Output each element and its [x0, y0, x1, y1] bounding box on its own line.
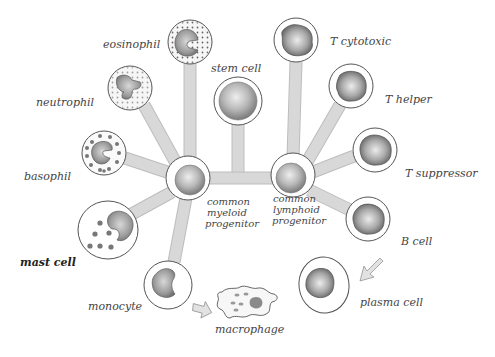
node-t-helper: T helper — [329, 64, 432, 108]
label-b-cell: B cell — [400, 235, 433, 248]
label-cmp-line1: common — [207, 196, 250, 207]
label-macrophage: macrophage — [215, 323, 285, 336]
node-macrophage: macrophage — [215, 286, 285, 336]
label-t-suppressor: T suppressor — [405, 167, 478, 180]
label-basophil: basophil — [24, 170, 72, 183]
label-clp-line1: common — [273, 193, 316, 204]
node-basophil: basophil — [24, 131, 126, 183]
label-clp-line2: lymphoid — [273, 204, 320, 215]
label-monocyte: monocyte — [88, 300, 143, 313]
label-neutrophil: neutrophil — [36, 96, 95, 109]
label-stem-cell: stem cell — [211, 62, 262, 75]
label-cmp-line2: myeloid — [207, 207, 247, 218]
arrow-b-cell-to-plasma-cell — [360, 258, 383, 281]
node-t-suppressor: T suppressor — [353, 128, 478, 180]
node-stem-cell: stem cell — [211, 62, 262, 125]
label-clp-line3: progenitor — [272, 215, 327, 226]
label-mast-cell: mast cell — [20, 256, 76, 269]
arrow-monocyte-to-macrophage — [190, 299, 214, 321]
label-plasma-cell: plasma cell — [360, 296, 423, 309]
label-t-helper: T helper — [385, 93, 432, 106]
node-neutrophil: neutrophil — [36, 66, 152, 110]
label-t-cytotoxic: T cytotoxic — [330, 35, 391, 48]
label-eosinophil: eosinophil — [103, 38, 161, 51]
node-b-cell: B cell — [346, 197, 433, 248]
node-monocyte: monocyte — [88, 261, 192, 313]
node-plasma-cell: plasma cell — [295, 254, 423, 316]
label-cmp-line3: progenitor — [205, 218, 260, 229]
node-t-cytotoxic: T cytotoxic — [274, 18, 391, 62]
node-mast-cell: mast cell — [20, 201, 138, 269]
node-eosinophil: eosinophil — [103, 20, 212, 64]
blood-cell-lineage-diagram: stem cell common myeloid progenitor comm… — [0, 0, 495, 357]
